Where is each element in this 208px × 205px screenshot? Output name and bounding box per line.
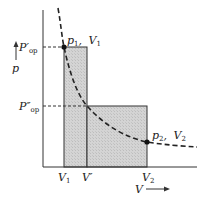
- arrow-right-icon: [164, 187, 170, 192]
- y-axis-label: p: [12, 41, 19, 75]
- label-p1-v1: p1, V1: [67, 34, 101, 48]
- work-area-stage-1: [64, 47, 87, 167]
- tick-p-op-double-prime: P″op: [18, 100, 40, 114]
- pv-diagram: p V P′op P″op V1 V′ V2 p1, V1 p2, V2: [0, 0, 208, 205]
- tick-v1: V1: [58, 171, 70, 185]
- svg-text:p: p: [12, 62, 19, 75]
- tick-v-prime: V′: [82, 171, 93, 184]
- point-p2: [144, 139, 149, 144]
- point-p1: [61, 44, 66, 49]
- label-p2-v2: p2, V2: [152, 129, 186, 143]
- svg-text:V: V: [135, 183, 144, 196]
- arrow-up-icon: [14, 41, 19, 47]
- tick-v2: V2: [142, 171, 154, 185]
- tick-p-op-prime: P′op: [18, 41, 38, 55]
